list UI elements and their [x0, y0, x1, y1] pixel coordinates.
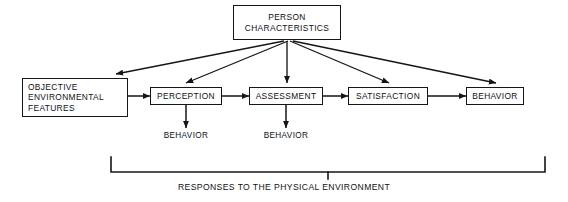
label-behavior-from-perception: BEHAVIOR: [153, 131, 219, 140]
flow-diagram: PERSON CHARACTERISTICS OBJECTIVE ENVIRON…: [0, 0, 568, 202]
node-behavior-terminal[interactable]: BEHAVIOR: [466, 87, 524, 105]
node-satisfaction-label: SATISFACTION: [356, 91, 420, 101]
arrow-person-to-satisfaction: [290, 41, 389, 83]
node-assessment-label: ASSESSMENT: [256, 91, 317, 101]
node-objective-environmental-features-label: OBJECTIVE ENVIRONMENTAL FEATURES: [28, 82, 104, 113]
arrow-person-to-objective: [116, 41, 284, 74]
label-behavior-from-assessment: BEHAVIOR: [252, 131, 320, 140]
node-person-characteristics[interactable]: PERSON CHARACTERISTICS: [233, 5, 341, 40]
node-assessment[interactable]: ASSESSMENT: [249, 87, 323, 105]
node-behavior-terminal-label: BEHAVIOR: [472, 91, 517, 101]
bracket-path: [111, 157, 545, 172]
node-perception-label: PERCEPTION: [157, 91, 215, 101]
person-characteristics-fanout-arrows: [116, 41, 496, 83]
downward-behavior-arrows: [186, 105, 286, 128]
node-perception[interactable]: PERCEPTION: [150, 87, 222, 105]
responses-bracket: [111, 157, 545, 179]
node-person-characteristics-label: PERSON CHARACTERISTICS: [245, 12, 329, 33]
node-satisfaction[interactable]: SATISFACTION: [348, 87, 428, 105]
arrow-person-to-perception: [186, 41, 288, 83]
arrow-person-to-behavior: [293, 41, 496, 83]
node-objective-environmental-features[interactable]: OBJECTIVE ENVIRONMENTAL FEATURES: [22, 78, 128, 117]
bracket-caption: RESPONSES TO THE PHYSICAL ENVIRONMENT: [0, 182, 568, 192]
